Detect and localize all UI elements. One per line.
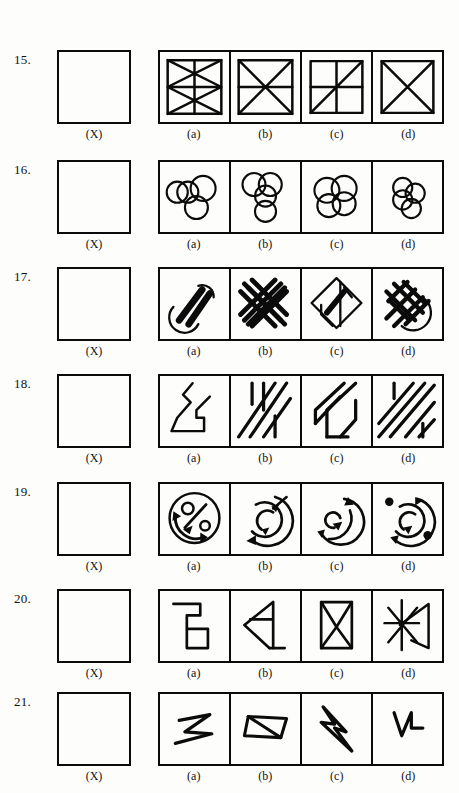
caption-option-d: (d) bbox=[373, 769, 445, 784]
option-c[interactable] bbox=[302, 52, 373, 122]
question-row: 18. bbox=[0, 372, 459, 482]
question-number: 17. bbox=[14, 269, 31, 285]
problem-figure-cell[interactable] bbox=[57, 692, 131, 766]
option-b[interactable] bbox=[231, 694, 302, 764]
option-b[interactable] bbox=[231, 591, 302, 661]
figure-dense-woven-lattice-with-arc bbox=[373, 269, 442, 339]
option-c[interactable] bbox=[302, 269, 373, 339]
option-b[interactable] bbox=[231, 269, 302, 339]
figure-zigzag-staircase-outline bbox=[160, 376, 229, 446]
caption-option-c: (c) bbox=[301, 666, 373, 681]
figure-four-overlapping-circles-compact-cluster bbox=[373, 162, 442, 232]
figure-thin-zigzag-arrow-stroke bbox=[160, 694, 229, 764]
option-d[interactable] bbox=[373, 591, 442, 661]
problem-figure-cell[interactable] bbox=[57, 589, 131, 663]
option-d[interactable] bbox=[373, 162, 442, 232]
figure-square-with-bowtie-and-horizontal-midline bbox=[231, 52, 300, 122]
question-number: 19. bbox=[14, 484, 31, 500]
options-strip bbox=[158, 50, 444, 124]
caption-option-c: (c) bbox=[301, 344, 373, 359]
option-a[interactable] bbox=[160, 52, 231, 122]
figure-square-quartered-with-one-diagonal bbox=[302, 52, 371, 122]
option-a[interactable] bbox=[160, 484, 231, 554]
question-row: 19. bbox=[0, 480, 459, 590]
figure-two-rounded-bars-with-loop bbox=[160, 269, 229, 339]
caption-problem: (X) bbox=[57, 559, 131, 574]
figure-diagonal-band-with-hooks bbox=[302, 376, 371, 446]
options-strip bbox=[158, 482, 444, 556]
figure-square-with-full-x-diagonals bbox=[373, 52, 442, 122]
caption-option-d: (d) bbox=[373, 344, 445, 359]
figure-triangle-with-horizontal-tail bbox=[231, 591, 300, 661]
option-c[interactable] bbox=[302, 484, 373, 554]
figure-woven-cross-lattice-of-rounded-bars bbox=[231, 269, 300, 339]
figure-circle-with-percent-sign-and-arrows bbox=[160, 484, 229, 554]
figure-square-with-nested-diagonals-and-bars bbox=[160, 52, 229, 122]
problem-figure-cell[interactable] bbox=[57, 374, 131, 448]
question-row: 15. bbox=[0, 48, 459, 158]
figure-diamond-with-folded-bars bbox=[302, 269, 371, 339]
option-a[interactable] bbox=[160, 162, 231, 232]
problem-figure-box bbox=[57, 692, 131, 766]
problem-figure-cell[interactable] bbox=[57, 50, 131, 124]
problem-figure-box bbox=[57, 267, 131, 341]
option-c[interactable] bbox=[302, 694, 373, 764]
option-b[interactable] bbox=[231, 376, 302, 446]
caption-option-b: (b) bbox=[230, 127, 302, 142]
caption-option-c: (c) bbox=[301, 127, 373, 142]
caption-option-c: (c) bbox=[301, 559, 373, 574]
option-a[interactable] bbox=[160, 376, 231, 446]
question-number: 15. bbox=[14, 52, 31, 68]
options-strip bbox=[158, 160, 444, 234]
caption-option-a: (a) bbox=[158, 344, 230, 359]
option-d[interactable] bbox=[373, 52, 442, 122]
option-d[interactable] bbox=[373, 269, 442, 339]
caption-option-a: (a) bbox=[158, 451, 230, 466]
caption-option-b: (b) bbox=[230, 769, 302, 784]
figure-concentric-arrow-rings-with-diagonal-arrow bbox=[231, 484, 300, 554]
options-strip bbox=[158, 589, 444, 663]
caption-option-a: (a) bbox=[158, 237, 230, 252]
figure-check-mark-with-square-step bbox=[373, 694, 442, 764]
caption-option-d: (d) bbox=[373, 237, 445, 252]
problem-figure-cell[interactable] bbox=[57, 482, 131, 556]
caption-problem: (X) bbox=[57, 127, 131, 142]
option-d[interactable] bbox=[373, 484, 442, 554]
option-a[interactable] bbox=[160, 591, 231, 661]
figure-asterisk-star-with-arrow bbox=[373, 591, 442, 661]
option-d[interactable] bbox=[373, 376, 442, 446]
problem-figure-box bbox=[57, 589, 131, 663]
option-d[interactable] bbox=[373, 694, 442, 764]
caption-option-b: (b) bbox=[230, 237, 302, 252]
caption-option-a: (a) bbox=[158, 769, 230, 784]
question-number: 16. bbox=[14, 162, 31, 178]
question-number: 21. bbox=[14, 694, 31, 710]
figure-stepped-line-with-square bbox=[160, 591, 229, 661]
caption-problem: (X) bbox=[57, 666, 131, 681]
worksheet-page: 15. bbox=[0, 0, 459, 793]
problem-figure-cell[interactable] bbox=[57, 160, 131, 234]
figure-concentric-arrow-arcs-with-arrowheads bbox=[302, 484, 371, 554]
caption-option-b: (b) bbox=[230, 451, 302, 466]
option-b[interactable] bbox=[231, 52, 302, 122]
options-strip bbox=[158, 692, 444, 766]
caption-option-a: (a) bbox=[158, 666, 230, 681]
caption-option-b: (b) bbox=[230, 344, 302, 359]
option-b[interactable] bbox=[231, 162, 302, 232]
figure-four-overlapping-circles-diamond bbox=[302, 162, 371, 232]
caption-problem: (X) bbox=[57, 344, 131, 359]
option-a[interactable] bbox=[160, 269, 231, 339]
caption-problem: (X) bbox=[57, 237, 131, 252]
caption-problem: (X) bbox=[57, 451, 131, 466]
problem-figure-box bbox=[57, 160, 131, 234]
caption-option-a: (a) bbox=[158, 127, 230, 142]
question-row: 17. bbox=[0, 265, 459, 375]
option-a[interactable] bbox=[160, 694, 231, 764]
option-b[interactable] bbox=[231, 484, 302, 554]
option-c[interactable] bbox=[302, 591, 373, 661]
caption-option-d: (d) bbox=[373, 666, 445, 681]
problem-figure-cell[interactable] bbox=[57, 267, 131, 341]
option-c[interactable] bbox=[302, 162, 373, 232]
options-strip bbox=[158, 374, 444, 448]
option-c[interactable] bbox=[302, 376, 373, 446]
